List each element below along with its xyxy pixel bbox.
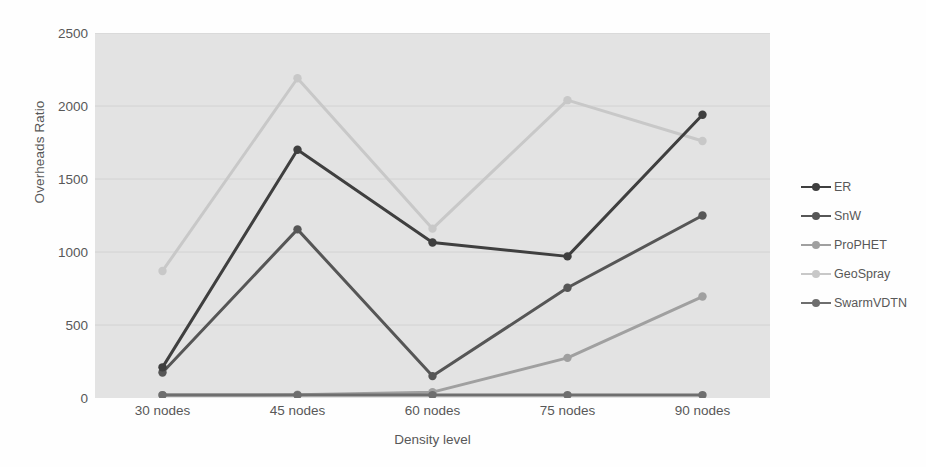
series-snw bbox=[158, 211, 706, 380]
series-prophet bbox=[158, 292, 706, 398]
data-point bbox=[563, 252, 571, 260]
data-point bbox=[158, 267, 166, 275]
legend-item-snw[interactable]: SnW bbox=[801, 201, 921, 230]
legend-key-icon bbox=[801, 268, 831, 280]
line-chart: Overheads Ratio 05001000150020002500 30 … bbox=[0, 0, 926, 467]
legend-key-icon bbox=[801, 297, 831, 309]
x-axis-tick-label: 45 nodes bbox=[238, 403, 358, 418]
y-axis-tick-label: 500 bbox=[10, 318, 88, 333]
legend-item-geospray[interactable]: GeoSpray bbox=[801, 259, 921, 288]
legend-item-prophet[interactable]: ProPHET bbox=[801, 230, 921, 259]
data-point bbox=[563, 284, 571, 292]
series-swarmvdtn bbox=[158, 391, 706, 398]
legend-label: SwarmVDTN bbox=[834, 296, 907, 310]
data-point bbox=[563, 96, 571, 104]
data-point bbox=[428, 372, 436, 380]
legend-label: SnW bbox=[834, 209, 861, 223]
data-point bbox=[158, 391, 166, 398]
x-axis-tick-label: 75 nodes bbox=[508, 403, 628, 418]
legend-key-icon bbox=[801, 210, 831, 222]
y-axis-tick-label: 2500 bbox=[10, 26, 88, 41]
legend-item-er[interactable]: ER bbox=[801, 172, 921, 201]
legend-key-icon bbox=[801, 181, 831, 193]
data-point bbox=[698, 391, 706, 398]
data-point bbox=[428, 238, 436, 246]
legend-key-icon bbox=[801, 239, 831, 251]
data-point bbox=[698, 137, 706, 145]
legend-label: ER bbox=[834, 180, 851, 194]
data-point bbox=[563, 354, 571, 362]
legend-marker bbox=[812, 183, 820, 191]
y-axis-tick-label: 1500 bbox=[10, 172, 88, 187]
chart-legend: ERSnWProPHETGeoSpraySwarmVDTN bbox=[801, 172, 921, 317]
plot-svg bbox=[95, 33, 770, 398]
data-point bbox=[293, 225, 301, 233]
y-axis-tick-labels: 05001000150020002500 bbox=[0, 0, 88, 467]
data-point bbox=[158, 363, 166, 371]
legend-marker bbox=[812, 241, 820, 249]
y-axis-tick-label: 0 bbox=[10, 391, 88, 406]
data-point bbox=[698, 111, 706, 119]
legend-marker bbox=[812, 212, 820, 220]
x-axis-tick-label: 60 nodes bbox=[373, 403, 493, 418]
legend-marker bbox=[812, 299, 820, 307]
data-point bbox=[428, 224, 436, 232]
y-axis-tick-label: 2000 bbox=[10, 99, 88, 114]
data-point bbox=[293, 74, 301, 82]
legend-item-swarmvdtn[interactable]: SwarmVDTN bbox=[801, 288, 921, 317]
data-point bbox=[698, 211, 706, 219]
x-axis-title: Density level bbox=[95, 432, 770, 447]
data-point bbox=[698, 292, 706, 300]
x-axis-tick-label: 30 nodes bbox=[103, 403, 223, 418]
legend-label: GeoSpray bbox=[834, 267, 890, 281]
legend-label: ProPHET bbox=[834, 238, 887, 252]
data-point bbox=[293, 146, 301, 154]
x-axis-tick-label: 90 nodes bbox=[643, 403, 763, 418]
legend-marker bbox=[812, 270, 820, 278]
plot-area bbox=[95, 33, 770, 398]
y-axis-tick-label: 1000 bbox=[10, 245, 88, 260]
x-axis-tick-labels: 30 nodes45 nodes60 nodes75 nodes90 nodes bbox=[95, 403, 770, 425]
data-point bbox=[563, 391, 571, 398]
